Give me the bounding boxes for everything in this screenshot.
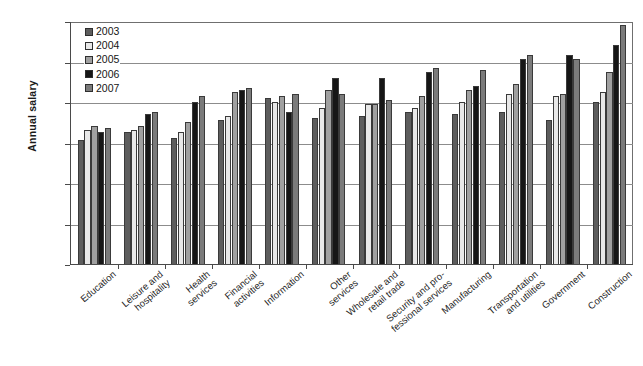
bar: [78, 140, 84, 264]
legend-swatch-icon: [85, 42, 93, 50]
bar: [292, 94, 298, 264]
x-axis-label-text: Transportation and utilities: [487, 268, 549, 325]
bar: [325, 90, 331, 264]
bar: [225, 116, 231, 264]
bar: [620, 25, 626, 264]
legend-label: 2004: [96, 40, 119, 51]
bar: [546, 120, 552, 264]
bar: [412, 108, 418, 264]
legend-item: 2005: [84, 54, 120, 65]
bar: [566, 55, 572, 264]
bar-group: [118, 22, 165, 264]
bar: [359, 116, 365, 264]
bar-group: [211, 22, 258, 264]
bar: [171, 138, 177, 264]
plot-area: [70, 22, 633, 265]
bar-groups: [71, 22, 633, 264]
bar: [600, 92, 606, 264]
bar-group: [446, 22, 493, 264]
bar: [272, 102, 278, 264]
bar: [419, 96, 425, 264]
legend-swatch-icon: [85, 56, 93, 64]
bar: [459, 102, 465, 264]
legend-swatch-icon: [85, 28, 93, 36]
x-axis-label-text: Leisure and hospitality: [120, 268, 174, 318]
bar: [246, 88, 252, 264]
legend-label: 2005: [96, 54, 119, 65]
bar: [553, 96, 559, 264]
legend-label: 2003: [96, 26, 119, 37]
bar-group: [539, 22, 586, 264]
x-axis-labels: EducationLeisure and hospitalityHealth s…: [70, 268, 633, 366]
x-axis-label-text: Education: [79, 268, 120, 305]
y-axis-tick-mark: [65, 265, 70, 266]
bar: [379, 78, 385, 264]
bar-group: [586, 22, 633, 264]
x-axis-label-text: Construction: [586, 268, 636, 312]
bar: [279, 96, 285, 264]
chart-legend: 20032004200520062007: [84, 26, 120, 94]
bar: [372, 104, 378, 264]
bar: [520, 59, 526, 264]
bar: [319, 108, 325, 264]
bar: [312, 118, 318, 264]
bar: [386, 100, 392, 264]
bar: [152, 112, 158, 264]
legend-item: 2007: [84, 83, 120, 94]
legend-item: 2004: [84, 40, 120, 51]
bar-group: [305, 22, 352, 264]
bar: [239, 90, 245, 264]
bar: [606, 72, 612, 264]
bar: [466, 90, 472, 264]
legend-label: 2007: [96, 83, 119, 94]
bar: [513, 84, 519, 264]
legend-swatch-icon: [85, 84, 93, 92]
bar: [265, 98, 271, 264]
legend-item: 2006: [84, 69, 120, 80]
legend-swatch-icon: [85, 70, 93, 78]
bar: [405, 112, 411, 264]
bar-group: [399, 22, 446, 264]
bar: [131, 130, 137, 264]
bar-chart: Annual salary $120k$100k$80k$60k$40k$20k…: [0, 0, 643, 366]
legend-item: 2003: [84, 26, 120, 37]
bar: [232, 92, 238, 264]
bar: [218, 120, 224, 264]
bar: [613, 45, 619, 264]
bar-group: [258, 22, 305, 264]
bar: [91, 126, 97, 264]
bar: [105, 128, 111, 264]
bar-group: [165, 22, 212, 264]
bar: [98, 132, 104, 264]
bar: [426, 72, 432, 264]
bar-group: [352, 22, 399, 264]
bar: [286, 112, 292, 264]
bar: [84, 130, 90, 264]
bar: [365, 104, 371, 264]
legend-label: 2006: [96, 69, 119, 80]
bar: [124, 132, 130, 264]
bar: [178, 132, 184, 264]
y-axis-title: Annual salary: [26, 36, 38, 196]
bar: [560, 94, 566, 264]
